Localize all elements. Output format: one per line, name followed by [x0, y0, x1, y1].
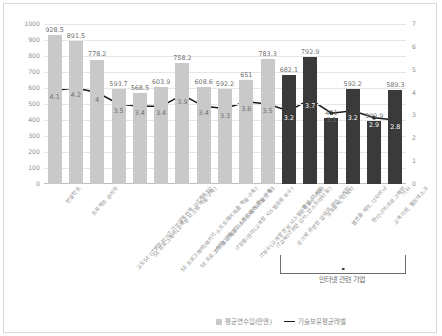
- y-axis-right-tick: 2: [412, 135, 432, 141]
- y-axis-right-tick: 5: [412, 67, 432, 73]
- y-axis-left-tick: 800: [10, 53, 40, 59]
- line-value-label: 3.9: [177, 99, 187, 105]
- y-axis-right-tick: 4: [412, 89, 432, 95]
- y-axis-left-tick: 400: [10, 117, 40, 123]
- y-axis-left-tick: 200: [10, 149, 40, 155]
- bar[interactable]: [154, 87, 168, 184]
- bar-value-label: 792.9: [301, 49, 319, 55]
- y-axis-right-tick: 6: [412, 44, 432, 50]
- y-axis-right-tick: 1: [412, 158, 432, 164]
- bar[interactable]: [133, 93, 147, 184]
- bar[interactable]: [69, 41, 83, 184]
- bar-value-label: 651: [240, 72, 252, 78]
- line-value-label: 3.2: [284, 115, 294, 121]
- bar-column[interactable]: [218, 24, 232, 184]
- y-axis-left-tick: 1000: [10, 21, 40, 27]
- x-axis-label: SE 프로그래머(패키지·소프트웨어제품 개발·구축): [180, 186, 259, 273]
- y-axis-left-tick: 100: [10, 165, 40, 171]
- bar[interactable]: [90, 60, 104, 185]
- line-value-label: 3.4: [199, 110, 209, 116]
- bar[interactable]: [324, 118, 338, 184]
- bar-value-label: 758.2: [173, 55, 191, 61]
- bar-value-label: 603.9: [152, 79, 170, 85]
- line-value-label: 2.8: [390, 124, 400, 130]
- y-axis-left-tick: 900: [10, 37, 40, 43]
- x-axis-label: SE 프로그래머(고객향 시스템 개발·구축): [152, 186, 218, 258]
- bar-column[interactable]: [112, 24, 126, 184]
- y-axis-right-tick: 3: [412, 112, 432, 118]
- bar-column[interactable]: [133, 24, 147, 184]
- line-value-label: 3.4: [156, 110, 166, 116]
- line-value-label: 3.5: [262, 108, 272, 114]
- y-axis-left-tick: 300: [10, 133, 40, 139]
- chart-legend: 평균연수입(만엔) 기술보유평균레벨: [0, 319, 442, 325]
- line-value-label: 3.1: [326, 117, 336, 123]
- bar-value-label: 682.1: [280, 67, 298, 73]
- line-value-label: 4: [95, 97, 99, 103]
- line-value-label: 4.1: [50, 94, 60, 100]
- bar[interactable]: [175, 63, 189, 184]
- line-value-label: 4.2: [71, 92, 81, 98]
- line-swatch-icon: [284, 321, 295, 322]
- bar-column[interactable]: [346, 24, 360, 184]
- bar[interactable]: [197, 87, 211, 184]
- bar[interactable]: [346, 89, 360, 184]
- line-value-label: 3.2: [348, 115, 358, 121]
- y-axis-left-tick: 700: [10, 69, 40, 75]
- bar-column[interactable]: [90, 24, 104, 184]
- y-axis-left-tick: 600: [10, 85, 40, 91]
- annotation-bracket: [280, 255, 407, 274]
- bar-column[interactable]: [282, 24, 296, 184]
- bar-value-label: 593.7: [109, 81, 127, 87]
- chart-container: 0100200300400500600700800900100001234567…: [0, 0, 442, 336]
- bar-column[interactable]: [69, 24, 83, 184]
- bar[interactable]: [239, 80, 253, 184]
- bar-value-label: 778.2: [88, 51, 106, 57]
- bar-column[interactable]: [261, 24, 275, 184]
- bar-column[interactable]: [154, 24, 168, 184]
- bar[interactable]: [303, 57, 317, 184]
- bar-column[interactable]: [197, 24, 211, 184]
- line-value-label: 3.4: [135, 110, 145, 116]
- bar-column[interactable]: [48, 24, 62, 184]
- y-axis-left-tick: 500: [10, 101, 40, 107]
- bar-value-label: 592.2: [216, 81, 234, 87]
- bar-value-label: 891.5: [67, 33, 85, 39]
- bar[interactable]: [282, 75, 296, 184]
- legend-label-bar: 평균연수입(만엔): [225, 319, 272, 325]
- bar[interactable]: [218, 89, 232, 184]
- bar[interactable]: [261, 59, 275, 184]
- line-value-label: 3.3: [220, 113, 230, 119]
- legend-label-line: 기술보유평균레벨: [298, 319, 346, 325]
- legend-item-line: 기술보유평균레벨: [284, 319, 346, 325]
- bar-value-label: 568.5: [131, 85, 149, 91]
- bracket-caption: 인터넷 관련 기업: [319, 277, 365, 284]
- bar-value-label: 608.6: [195, 79, 213, 85]
- y-axis-left-tick: 0: [10, 181, 40, 187]
- bar-column[interactable]: [324, 24, 338, 184]
- bar[interactable]: [388, 90, 402, 184]
- plot-area: 0100200300400500600700800900100001234567…: [44, 24, 406, 184]
- x-axis-category-labels: 컨설턴트프로젝트 관리자고도SE (IT명장치·IoT·기반설계연계, IoT계…: [44, 186, 406, 264]
- bar-value-label: 592.2: [344, 81, 362, 87]
- bar-value-label: 390.9: [365, 113, 383, 119]
- x-axis-label: 프로젝트 관리자: [91, 186, 119, 217]
- bar-value-label: 783.3: [258, 51, 276, 57]
- bar[interactable]: [48, 35, 62, 184]
- line-value-label: 2.9: [369, 122, 379, 128]
- bar-column[interactable]: [367, 24, 381, 184]
- bar-value-label: 928.5: [45, 27, 63, 33]
- legend-item-bar: 평균연수입(만엔): [216, 319, 272, 325]
- bar-value-label: 589.3: [386, 82, 404, 88]
- bar[interactable]: [112, 89, 126, 184]
- bracket-dot-icon: [342, 268, 345, 271]
- x-axis-label: 컨설턴트: [64, 186, 81, 204]
- bar-swatch-icon: [216, 319, 222, 325]
- line-value-label: 3.7: [305, 103, 315, 109]
- line-value-label: 3.6: [241, 106, 251, 112]
- bar[interactable]: [367, 121, 381, 184]
- line-value-label: 3.5: [113, 108, 123, 114]
- y-axis-right-tick: 7: [412, 21, 432, 27]
- bar-column[interactable]: [388, 24, 402, 184]
